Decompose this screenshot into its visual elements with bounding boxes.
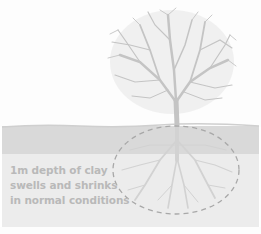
tree-roots-icon xyxy=(122,127,232,208)
caption-line-3: in normal conditions xyxy=(10,193,129,208)
tree-canopy-icon xyxy=(108,8,236,125)
soil-caption: 1m depth of clay swells and shrinks in n… xyxy=(10,163,129,208)
diagram-canvas: 1m depth of clay swells and shrinks in n… xyxy=(0,0,261,234)
caption-line-1: 1m depth of clay xyxy=(10,163,129,178)
caption-line-2: swells and shrinks xyxy=(10,178,129,193)
ground-surface-line xyxy=(2,124,259,127)
